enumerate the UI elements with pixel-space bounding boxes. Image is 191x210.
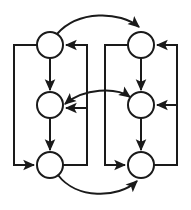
node-middle-left[interactable]: [37, 92, 63, 118]
node-bottom-right[interactable]: [128, 152, 154, 178]
edge-top-left-to-bottom-left-outer: [14, 45, 37, 165]
edge-top-right-to-bottom-right-inner: [105, 45, 128, 165]
graph-svg: [0, 0, 191, 210]
node-top-left[interactable]: [37, 32, 63, 58]
node-layer: [37, 32, 154, 178]
node-top-right[interactable]: [128, 32, 154, 58]
node-middle-right[interactable]: [128, 92, 154, 118]
edge-bottom-left-to-top-left-inner: [63, 45, 87, 165]
edge-middle-left-middle-right-arc: [65, 91, 130, 104]
edge-bottom-left-to-bottom-right-arc: [58, 175, 137, 194]
node-bottom-left[interactable]: [37, 152, 63, 178]
edge-top-left-to-top-right-arc: [57, 15, 139, 34]
diagram-canvas: [0, 0, 191, 210]
